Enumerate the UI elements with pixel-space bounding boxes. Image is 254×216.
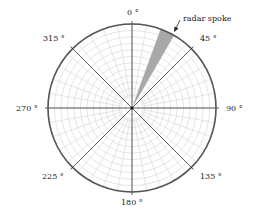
angle-label-0: 0 ° [127,8,139,17]
angle-label-135: 135 ° [200,172,222,181]
radar-spoke-annotation: radar spoke [183,14,232,23]
annotation-arrow-icon [174,20,180,32]
angle-label-45: 45 ° [200,34,217,43]
center-point [131,107,134,110]
angle-label-315: 315 ° [43,34,65,43]
radar-diagram: 0 ° 45 ° 90 ° 135 ° 180 ° 225 ° 270 ° 31… [0,0,254,216]
angle-label-270: 270 ° [16,104,38,113]
angle-label-180: 180 ° [121,198,143,207]
angle-label-90: 90 ° [226,104,243,113]
angle-label-225: 225 ° [42,172,64,181]
angle-labels: 0 ° 45 ° 90 ° 135 ° 180 ° 225 ° 270 ° 31… [16,8,243,207]
